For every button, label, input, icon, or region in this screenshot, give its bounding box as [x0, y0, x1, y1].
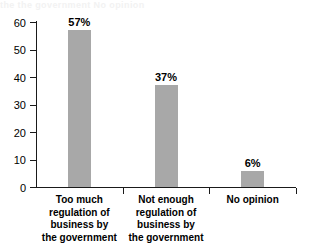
category-label-line: No opinion	[209, 194, 296, 207]
category-label-line: the government	[36, 232, 123, 245]
y-axis-tick-label: 60	[14, 17, 26, 28]
scan-bleed-through-artifact: the the government No opinion	[0, 0, 309, 10]
bar[interactable]: 6%	[241, 171, 264, 188]
category-label-line: regulation of	[123, 207, 210, 220]
plot-area: 57%37%6%	[36, 22, 296, 187]
category-label-line: the government	[123, 232, 210, 245]
bar-value-label: 57%	[68, 16, 90, 28]
x-axis-line	[36, 187, 296, 188]
category-label-line: business by	[36, 219, 123, 232]
category-label-line: Too much	[36, 194, 123, 207]
y-axis-tick-label: 10	[14, 155, 26, 166]
category-separator-tick	[296, 188, 297, 194]
y-axis-tick-label: 30	[14, 100, 26, 111]
category-label-line: Not enough	[123, 194, 210, 207]
category-label-line: regulation of	[36, 207, 123, 220]
y-axis-tick-label: 20	[14, 127, 26, 138]
y-axis-tick-label: 50	[14, 45, 26, 56]
category-label: Not enoughregulation ofbusiness bythe go…	[123, 194, 210, 244]
y-axis-tick-label: 0	[20, 182, 26, 193]
bar[interactable]: 57%	[68, 30, 91, 187]
y-axis-tick-label: 40	[14, 72, 26, 83]
y-axis-tick: 0	[30, 187, 36, 188]
bar-value-label: 37%	[155, 71, 177, 83]
category-label: Too muchregulation ofbusiness bythe gove…	[36, 194, 123, 244]
bar-value-label: 6%	[245, 157, 261, 169]
bar-chart: the the government No opinion 0102030405…	[0, 0, 309, 249]
category-label: No opinion	[209, 194, 296, 207]
bar[interactable]: 37%	[155, 85, 178, 187]
category-label-line: business by	[123, 219, 210, 232]
